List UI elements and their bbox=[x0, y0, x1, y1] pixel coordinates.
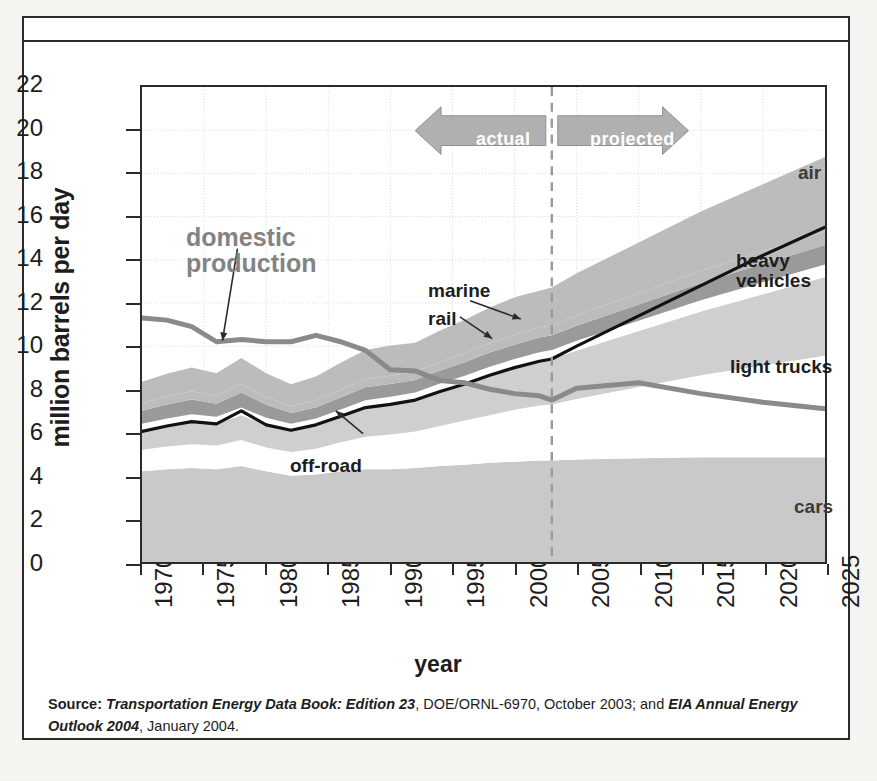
x-tick-label-2025: 2025 bbox=[837, 574, 865, 608]
x-tick-mark-2025 bbox=[827, 564, 829, 575]
x-tick-label-2010: 2010 bbox=[650, 574, 678, 608]
y-tick-mark-12 bbox=[126, 303, 140, 305]
x-tick-label-1970: 1970 bbox=[150, 574, 178, 608]
y-tick-mark-2 bbox=[126, 520, 140, 522]
y-tick-mark-0 bbox=[126, 564, 140, 566]
y-tick-mark-4 bbox=[126, 477, 140, 479]
annotation-heavy-vehicles: heavy vehicles bbox=[736, 251, 811, 291]
source-note: Source: Transportation Energy Data Book:… bbox=[48, 694, 838, 738]
x-tick-mark-1990 bbox=[390, 564, 392, 575]
annotation-domestic-production-line2: production bbox=[186, 251, 317, 277]
y-tick-label-8: 8 bbox=[0, 375, 43, 403]
y-axis-title: million barrels per day bbox=[46, 128, 75, 508]
y-tick-mark-20 bbox=[126, 129, 140, 131]
x-tick-mark-1995 bbox=[452, 564, 454, 575]
annotation-air: air bbox=[798, 162, 821, 184]
plot-area bbox=[140, 85, 827, 564]
chart-figure: million barrels per day year 02468101214… bbox=[24, 18, 852, 668]
x-tick-label-2005: 2005 bbox=[587, 574, 615, 608]
x-axis-title: year bbox=[24, 651, 852, 678]
x-tick-label-1980: 1980 bbox=[275, 574, 303, 608]
x-tick-mark-2000 bbox=[515, 564, 517, 575]
x-tick-mark-1970 bbox=[140, 564, 142, 575]
y-tick-mark-6 bbox=[126, 433, 140, 435]
y-tick-mark-8 bbox=[126, 390, 140, 392]
x-tick-label-1995: 1995 bbox=[462, 574, 490, 608]
area-band-cars bbox=[142, 457, 825, 562]
annotation-domestic-production-line1: domestic bbox=[186, 225, 317, 251]
y-tick-label-22: 22 bbox=[0, 70, 43, 98]
source-tail: , January 2004. bbox=[139, 718, 239, 734]
x-tick-label-2015: 2015 bbox=[712, 574, 740, 608]
x-tick-mark-1985 bbox=[327, 564, 329, 575]
y-tick-label-14: 14 bbox=[0, 244, 43, 272]
annotation-light-trucks: light trucks bbox=[730, 356, 832, 378]
chart-svg bbox=[142, 87, 825, 562]
y-tick-mark-16 bbox=[126, 216, 140, 218]
y-tick-label-18: 18 bbox=[0, 157, 43, 185]
y-tick-label-2: 2 bbox=[0, 505, 43, 533]
annotation-cars: cars bbox=[794, 496, 833, 518]
source-title-1: Transportation Energy Data Book: Edition… bbox=[106, 696, 415, 712]
x-tick-label-1985: 1985 bbox=[337, 574, 365, 608]
annotation-off-road: off-road bbox=[290, 455, 362, 477]
x-tick-mark-2005 bbox=[577, 564, 579, 575]
source-prefix: Source: bbox=[48, 696, 102, 712]
x-tick-label-1990: 1990 bbox=[400, 574, 428, 608]
annotation-marine: marine bbox=[428, 280, 490, 302]
y-tick-label-12: 12 bbox=[0, 288, 43, 316]
figure-card: million barrels per day year 02468101214… bbox=[22, 16, 850, 740]
x-tick-label-2020: 2020 bbox=[775, 574, 803, 608]
y-tick-label-16: 16 bbox=[0, 201, 43, 229]
y-tick-mark-14 bbox=[126, 259, 140, 261]
annotation-heavy-vehicles-line2: vehicles bbox=[736, 271, 811, 291]
y-tick-label-20: 20 bbox=[0, 114, 43, 142]
y-tick-label-6: 6 bbox=[0, 418, 43, 446]
x-tick-label-2000: 2000 bbox=[525, 574, 553, 608]
y-tick-label-4: 4 bbox=[0, 462, 43, 490]
annotation-domestic-production: domestic production bbox=[186, 225, 317, 276]
source-middle: , DOE/ORNL-6970, October 2003; and bbox=[415, 696, 668, 712]
x-tick-mark-2020 bbox=[765, 564, 767, 575]
x-tick-mark-2015 bbox=[702, 564, 704, 575]
x-tick-mark-1980 bbox=[265, 564, 267, 575]
x-tick-label-1975: 1975 bbox=[212, 574, 240, 608]
x-tick-mark-1975 bbox=[202, 564, 204, 575]
y-tick-mark-18 bbox=[126, 172, 140, 174]
annotation-rail: rail bbox=[428, 308, 457, 330]
annotation-actual: actual bbox=[476, 129, 530, 150]
annotation-heavy-vehicles-line1: heavy bbox=[736, 251, 811, 271]
x-tick-mark-2010 bbox=[640, 564, 642, 575]
y-tick-label-0: 0 bbox=[0, 549, 43, 577]
y-tick-mark-10 bbox=[126, 346, 140, 348]
y-tick-label-10: 10 bbox=[0, 331, 43, 359]
annotation-projected: projected bbox=[590, 129, 675, 150]
